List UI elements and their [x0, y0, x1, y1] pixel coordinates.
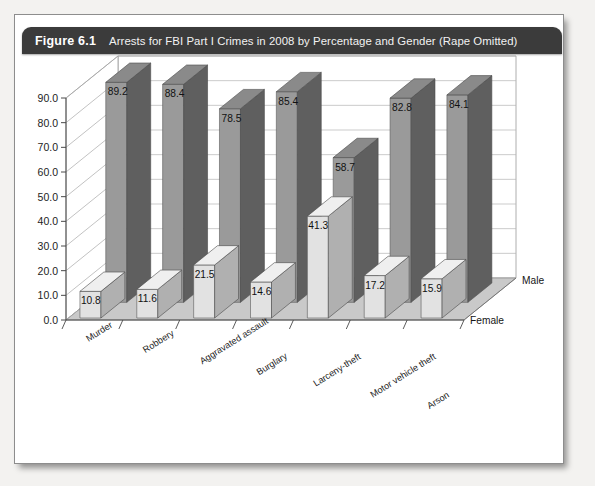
bar-label-female-1: 11.6	[138, 293, 157, 304]
category-label-5: Motor vehicle theft	[368, 351, 437, 399]
bar-label-male-6: 84.1	[449, 99, 469, 110]
y-axis-tick-label: 40.0	[38, 215, 59, 227]
bar-label-female-4: 41.3	[308, 220, 328, 231]
bar-label-female-3: 14.6	[252, 286, 272, 297]
bar-chart-3d: 0.010.020.030.040.050.060.070.080.090.08…	[14, 54, 562, 462]
bar-male-1-front	[163, 84, 184, 302]
bar-female-4-front	[307, 216, 328, 318]
bar-label-male-3: 85.4	[278, 96, 298, 107]
category-tick	[346, 320, 350, 329]
figure-header: Figure 6.1 Arrests for FBI Part I Crimes…	[22, 27, 562, 54]
y-axis-tick-label: 20.0	[38, 265, 59, 277]
category-label-3: Burglary	[255, 350, 290, 377]
category-label-1: Robbery	[141, 328, 176, 355]
bar-label-male-0: 89.2	[108, 86, 128, 97]
bar-male-5-side	[411, 79, 435, 303]
figure-number: Figure 6.1	[35, 34, 96, 48]
series-label-male: Male	[522, 275, 544, 286]
y-axis-tick-label: 10.0	[38, 289, 59, 301]
category-tick	[289, 320, 293, 329]
figure-title: Arrests for FBI Part I Crimes in 2008 by…	[109, 35, 517, 47]
bar-male-0-front	[106, 82, 127, 302]
category-tick	[403, 320, 407, 329]
bar-male-2-side	[240, 89, 264, 302]
category-tick	[460, 320, 464, 329]
bar-label-male-5: 82.8	[392, 102, 412, 113]
y-axis-tick-label: 30.0	[38, 240, 59, 252]
bar-label-female-2: 21.5	[195, 269, 215, 280]
bar-male-0-side	[127, 63, 151, 302]
category-label-4: Larceny-theft	[312, 351, 363, 388]
bar-label-male-1: 88.4	[165, 88, 185, 99]
y-axis-tick-label: 70.0	[38, 141, 59, 153]
bar-label-male-2: 78.5	[221, 113, 241, 124]
bar-label-female-5: 17.2	[365, 280, 385, 291]
category-tick	[176, 320, 180, 329]
bar-label-female-6: 15.9	[422, 283, 442, 294]
page-background: Figure 6.1 Arrests for FBI Part I Crimes…	[0, 0, 595, 486]
y-axis-tick-label: 80.0	[38, 117, 59, 129]
y-axis-tick-label: 50.0	[38, 191, 59, 203]
category-label-2: Aggravated assault	[198, 316, 270, 366]
category-tick	[62, 320, 66, 329]
category-tick	[233, 320, 237, 329]
y-axis-tick-label: 0.0	[43, 314, 58, 326]
bar-female-4-side	[328, 197, 352, 318]
chart-area: 0.010.020.030.040.050.060.070.080.090.08…	[14, 54, 562, 462]
y-axis-tick-label: 60.0	[38, 166, 59, 178]
category-label-6: Arson	[425, 390, 451, 411]
bar-male-6-side	[468, 76, 492, 303]
y-axis-tick-label: 90.0	[38, 92, 59, 104]
bar-label-male-4: 58.7	[335, 162, 355, 173]
category-tick	[119, 320, 123, 329]
bar-label-female-0: 10.8	[81, 295, 101, 306]
category-label-0: Murder	[84, 320, 114, 344]
series-label-female: Female	[470, 315, 504, 326]
